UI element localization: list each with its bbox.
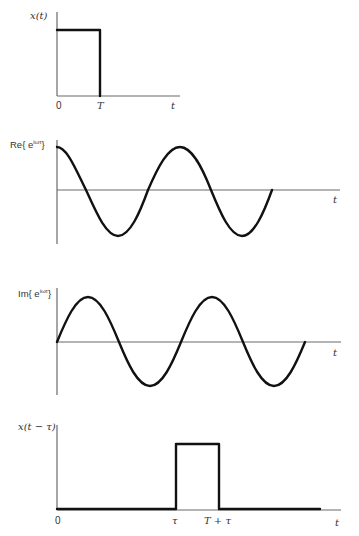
cosine-signal bbox=[57, 147, 272, 236]
x-axis-label: t bbox=[333, 347, 338, 358]
plot-real-part: Re{ eiωτ} t bbox=[10, 139, 340, 244]
tick-T: T bbox=[97, 100, 105, 111]
y-axis-label: Im{ eiωτ} bbox=[18, 288, 51, 299]
plot-delayed-pulse: x(t − τ) 0 τ T + τ t bbox=[18, 421, 341, 528]
tick-T-plus-tau: T + τ bbox=[204, 515, 231, 526]
tick-tau: τ bbox=[172, 515, 178, 526]
tick-zero: 0 bbox=[56, 100, 62, 111]
y-axis-label: x(t) bbox=[30, 10, 48, 21]
x-axis-label: t bbox=[171, 100, 176, 111]
delayed-pulse-signal bbox=[57, 444, 320, 509]
pulse-signal bbox=[57, 30, 100, 96]
tick-zero: 0 bbox=[55, 515, 61, 526]
signal-diagram: x(t) 0 T t Re{ eiωτ} t Im{ eiωτ} t x(t −… bbox=[0, 0, 359, 536]
x-axis-label: t bbox=[335, 517, 340, 528]
x-axis-label: t bbox=[333, 194, 338, 205]
plot-pulse: x(t) 0 T t bbox=[30, 10, 180, 111]
y-axis-label: Re{ eiωτ} bbox=[10, 139, 45, 150]
plot-imaginary-part: Im{ eiωτ} t bbox=[18, 288, 341, 395]
y-axis-label: x(t − τ) bbox=[18, 421, 56, 432]
